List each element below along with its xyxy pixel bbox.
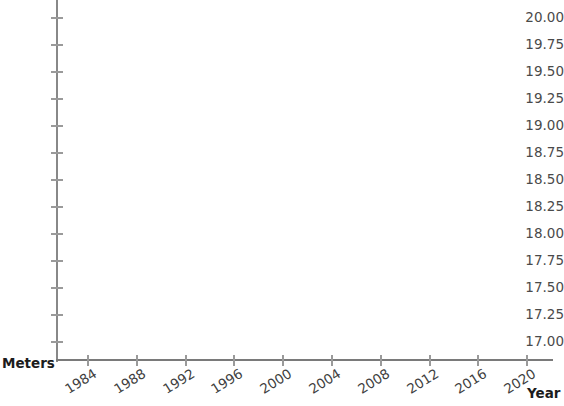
x-axis-tick-mark [331,355,333,366]
x-axis-tick-label: 1992 [160,368,194,396]
y-axis-tick-mark [51,17,63,19]
x-axis-tick-label: 1984 [63,368,97,396]
x-axis-tick-mark [87,355,89,366]
y-axis-tick-label: 18.75 [516,146,564,160]
y-axis-tick-label: 18.50 [516,173,564,187]
y-axis-tick-mark [51,98,63,100]
y-axis-tick-mark [51,125,63,127]
y-axis-tick-label: 17.25 [516,308,564,322]
x-axis-tick-label: 2000 [258,368,292,396]
y-axis-tick-label: 20.00 [516,11,564,25]
y-axis-tick-label: 17.75 [516,254,564,268]
x-axis-tick-mark [380,355,382,366]
y-axis-tick-mark [51,206,63,208]
x-axis-tick-label: 2008 [356,368,390,396]
y-axis-tick-label: 19.25 [516,92,564,106]
x-axis-tick-mark [526,355,528,366]
y-axis-tick-label: 19.50 [516,65,564,79]
x-axis-tick-label: 2012 [404,368,438,396]
y-axis-tick-mark [51,152,63,154]
y-axis-tick-label: 18.25 [516,200,564,214]
y-axis-tick-label: 19.75 [516,38,564,52]
x-axis-tick-mark [477,355,479,366]
chart-figure: 17.0017.2517.5017.7518.0018.2518.5018.75… [0,0,564,406]
y-axis-title: Meters [2,357,55,371]
y-axis-tick-mark [51,233,63,235]
x-axis-tick-mark [136,355,138,366]
x-axis-tick-mark [233,355,235,366]
y-axis-tick-label: 18.00 [516,227,564,241]
x-axis-tick-mark [185,355,187,366]
x-axis-tick-label: 1988 [112,368,146,396]
y-axis-tick-label: 19.00 [516,119,564,133]
y-axis-tick-mark [51,71,63,73]
x-axis-tick-label: 1996 [209,368,243,396]
y-axis-tick-mark [51,314,63,316]
plot-area [58,0,553,359]
y-axis-tick-label: 17.50 [516,281,564,295]
x-axis-tick-mark [429,355,431,366]
y-axis-tick-mark [51,44,63,46]
x-axis-tick-mark [282,355,284,366]
y-axis-tick-mark [51,260,63,262]
y-axis-tick-mark [51,287,63,289]
y-axis-tick-label: 17.00 [516,335,564,349]
x-axis-title: Year [527,387,560,401]
y-axis-line [56,0,58,362]
y-axis-tick-mark [51,341,63,343]
x-axis-tick-label: 2016 [453,368,487,396]
y-axis-tick-mark [51,179,63,181]
x-axis-tick-label: 2004 [307,368,341,396]
